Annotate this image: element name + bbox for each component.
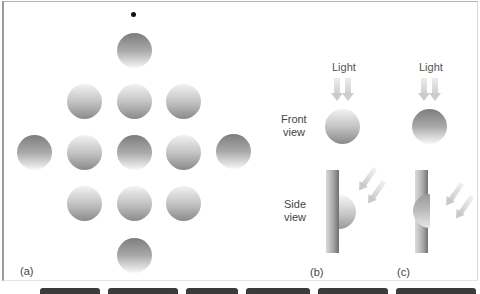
ball-light-top bbox=[117, 186, 152, 221]
ball-dark-top bbox=[117, 33, 152, 68]
panel-a-label: (a) bbox=[20, 265, 33, 278]
light-label-c: Light bbox=[419, 61, 443, 74]
light-arrow-icon bbox=[334, 78, 340, 94]
ball-dark-top bbox=[216, 134, 251, 169]
surface-wall bbox=[326, 170, 339, 253]
ball-light-top bbox=[166, 135, 201, 170]
light-label-b: Light bbox=[332, 61, 356, 74]
ball-light-top bbox=[67, 84, 102, 119]
front-view-dent bbox=[412, 109, 447, 144]
ball-dark-top bbox=[17, 135, 52, 170]
panel-b-label: (b) bbox=[310, 266, 323, 279]
front-view-bump bbox=[325, 109, 360, 144]
ball-light-top bbox=[117, 84, 152, 119]
ball-dark-top bbox=[117, 135, 152, 170]
front-view-label-line1: Front bbox=[281, 113, 307, 126]
fixation-dot bbox=[131, 12, 136, 17]
light-arrow-icon bbox=[432, 78, 438, 94]
ball-light-top bbox=[67, 135, 102, 170]
front-view-label-line2: view bbox=[283, 126, 305, 139]
cropped-caption-line bbox=[0, 286, 480, 294]
ball-light-top bbox=[166, 186, 201, 221]
ball-dark-top bbox=[117, 238, 152, 273]
light-arrow-icon bbox=[345, 78, 351, 94]
ball-light-top bbox=[67, 186, 102, 221]
panel-c-label: (c) bbox=[397, 266, 410, 279]
light-arrow-icon bbox=[421, 78, 427, 94]
ball-light-top bbox=[166, 84, 201, 119]
side-view-label-line1: Side bbox=[284, 198, 306, 211]
side-view-label-line2: view bbox=[284, 211, 306, 224]
